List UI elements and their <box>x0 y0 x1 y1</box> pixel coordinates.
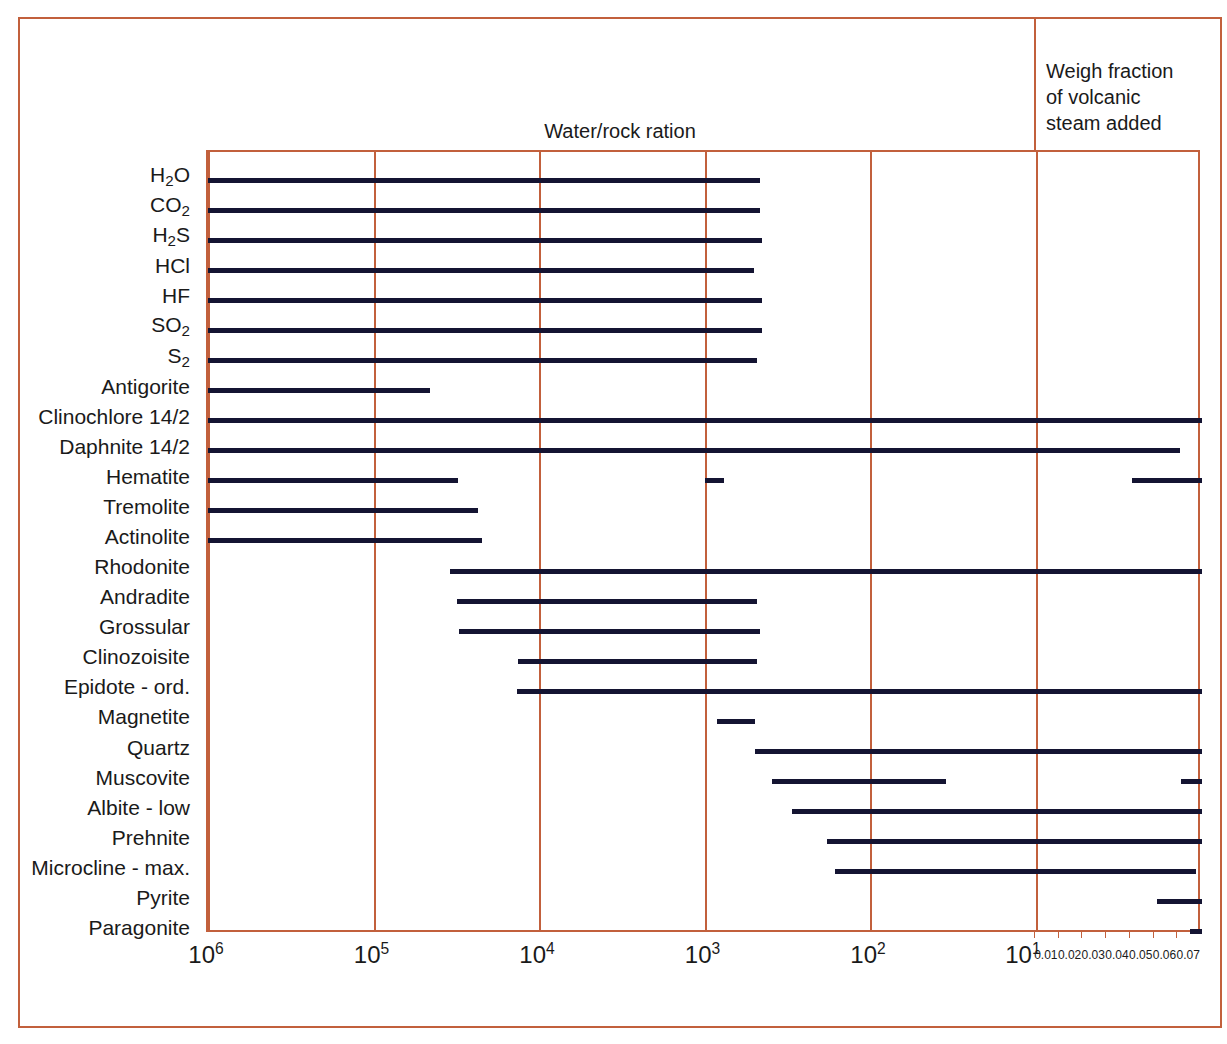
bar-prehnite <box>827 839 1202 844</box>
x-minor-tick-2 <box>1081 930 1082 938</box>
x-minor-tick-5 <box>1153 930 1154 938</box>
bar-s2 <box>208 358 757 363</box>
bar-hematite-seg2 <box>705 478 724 483</box>
bar-microcline-max <box>835 869 1196 874</box>
y-label-grossular: Grossular <box>99 615 190 639</box>
bar-hf <box>208 298 762 303</box>
bar-h2s <box>208 238 762 243</box>
y-label-tremolite: Tremolite <box>103 495 190 519</box>
x-tick-1e2: 102 <box>850 940 885 969</box>
bar-hematite-seg3 <box>1132 478 1202 483</box>
plot-area <box>206 150 1200 932</box>
x-tick-1e4: 104 <box>519 940 554 969</box>
y-label-magnetite: Magnetite <box>98 705 190 729</box>
y-label-albite-low: Albite - low <box>87 796 190 820</box>
x-tick-0-02: 0.02 <box>1058 948 1081 962</box>
bar-hcl <box>208 268 754 273</box>
y-label-clinochlore-14-2: Clinochlore 14/2 <box>38 405 190 429</box>
y-label-hcl: HCl <box>155 254 190 278</box>
bar-grossular <box>459 629 760 634</box>
note-line-2: of volcanic <box>1046 84 1196 110</box>
y-label-daphnite-14-2: Daphnite 14/2 <box>59 435 190 459</box>
y-label-rhodonite: Rhodonite <box>94 555 190 579</box>
x-tick-1e3: 103 <box>685 940 720 969</box>
y-label-paragonite: Paragonite <box>88 916 190 940</box>
x-minor-tick-4 <box>1129 930 1130 938</box>
y-label-hematite: Hematite <box>106 465 190 489</box>
y-label-hf: HF <box>162 284 190 308</box>
x-tick-0-05: 0.05 <box>1129 948 1152 962</box>
x-tick-0-01: 0.01 <box>1034 948 1057 962</box>
bar-hematite-seg1 <box>208 478 458 483</box>
bar-rhodonite <box>450 569 1202 574</box>
y-label-actinolite: Actinolite <box>105 525 190 549</box>
x-tick-1e5: 105 <box>354 940 389 969</box>
bar-albite-low <box>792 809 1202 814</box>
y-label-quartz: Quartz <box>127 736 190 760</box>
bar-andradite <box>457 599 757 604</box>
volcanic-steam-note: Weigh fraction of volcanic steam added <box>1046 58 1196 136</box>
bar-so2 <box>208 328 762 333</box>
y-label-co2: CO2 <box>150 193 190 219</box>
bar-co2 <box>208 208 760 213</box>
y-label-andradite: Andradite <box>100 585 190 609</box>
y-label-pyrite: Pyrite <box>136 886 190 910</box>
bar-epidote-ord <box>517 689 1202 694</box>
x-tick-0-06: 0.06 <box>1153 948 1176 962</box>
bar-muscovite-seg1 <box>772 779 946 784</box>
y-label-clinozoisite: Clinozoisite <box>83 645 190 669</box>
y-label-muscovite: Muscovite <box>95 766 190 790</box>
x-tick-1e6: 106 <box>188 940 223 969</box>
y-label-so2: SO2 <box>151 314 190 340</box>
note-line-1: Weigh fraction <box>1046 58 1196 84</box>
bar-quartz <box>755 749 1202 754</box>
bar-tremolite <box>208 508 478 513</box>
y-label-epidote-ord: Epidote - ord. <box>64 675 190 699</box>
bar-antigorite <box>208 388 430 393</box>
y-label-antigorite: Antigorite <box>101 375 190 399</box>
x-minor-tick-0 <box>1034 930 1035 938</box>
chart-title: Water/rock ration <box>206 120 1034 143</box>
x-tick-0-07: 0.07 <box>1176 948 1199 962</box>
x-tick-0-03: 0.03 <box>1082 948 1105 962</box>
bar-daphnite-14-2 <box>208 448 1180 453</box>
bar-magnetite <box>717 719 755 724</box>
y-label-h2s: H2S <box>152 223 190 249</box>
bar-clinozoisite <box>518 659 757 664</box>
frame-divider <box>1034 17 1036 152</box>
plot-inner <box>208 152 1198 930</box>
bar-muscovite-seg2 <box>1181 779 1202 784</box>
bar-h2o <box>208 178 760 183</box>
y-label-h2o: H2O <box>150 163 190 189</box>
y-label-microcline-max: Microcline - max. <box>31 856 190 880</box>
x-minor-tick-6 <box>1176 930 1177 938</box>
note-line-3: steam added <box>1046 110 1196 136</box>
x-minor-tick-1 <box>1058 930 1059 938</box>
y-label-prehnite: Prehnite <box>112 826 190 850</box>
x-tick-0-04: 0.04 <box>1105 948 1128 962</box>
bar-clinochlore-14-2 <box>208 418 1202 423</box>
y-label-s2: S2 <box>168 344 190 370</box>
bar-pyrite <box>1157 899 1202 904</box>
bar-paragonite <box>1190 929 1202 934</box>
x-axis-labels: 1061051041031021010.010.020.030.040.050.… <box>0 940 1227 980</box>
y-axis-labels: H2OCO2H2SHClHFSO2S2AntigoriteClinochlore… <box>0 150 198 932</box>
x-minor-tick-3 <box>1105 930 1106 938</box>
bar-actinolite <box>208 538 482 543</box>
